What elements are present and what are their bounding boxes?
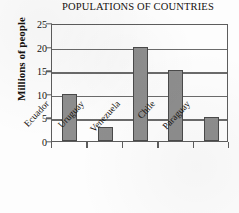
x-tick-mark xyxy=(157,142,158,148)
y-tick-label: 25 xyxy=(21,19,47,30)
y-tick-label: 15 xyxy=(21,66,47,77)
bar-chart-figure: POPULATIONS OF COUNTRIES Millions of peo… xyxy=(0,0,239,213)
chart-title: POPULATIONS OF COUNTRIES xyxy=(40,1,236,12)
y-tick-label: 20 xyxy=(21,42,47,53)
x-tick-mark xyxy=(193,142,194,148)
bar-paraguay xyxy=(204,117,219,141)
x-tick-mark xyxy=(228,142,229,148)
